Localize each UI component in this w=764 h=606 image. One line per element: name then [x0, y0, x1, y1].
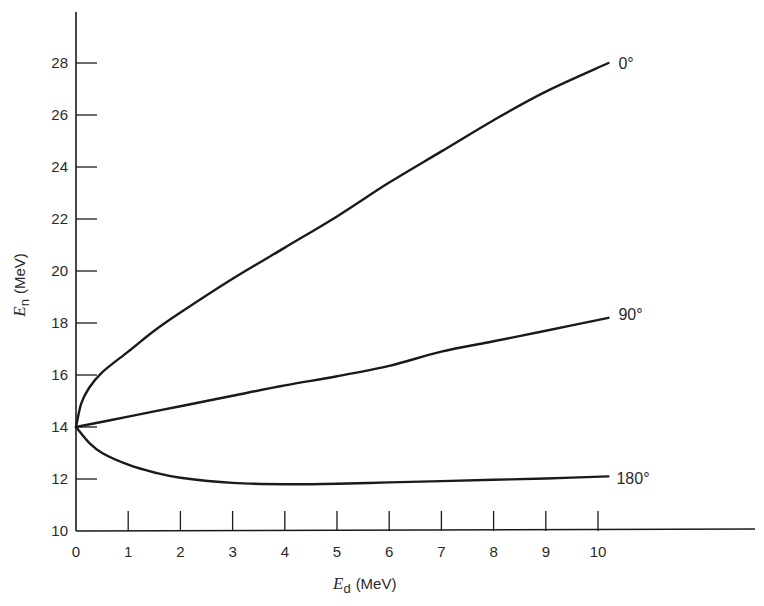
y-tick-label: 10 [51, 522, 68, 539]
y-tick-label: 12 [51, 470, 68, 487]
y-tick-label: 28 [51, 54, 68, 71]
y-tick-label: 18 [51, 314, 68, 331]
x-axis-line [76, 529, 755, 531]
x-tick-label: 4 [281, 543, 289, 560]
x-tick-label: 3 [228, 543, 236, 560]
curve-label-90-deg: 90° [618, 306, 642, 323]
y-tick-label: 16 [51, 366, 68, 383]
y-tick-label: 20 [51, 262, 68, 279]
y-tick-label: 24 [51, 158, 68, 175]
y-axis-symbol: E [10, 306, 29, 318]
curve-0-deg [76, 63, 608, 427]
y-axis-title: En(MeV) [10, 253, 32, 317]
x-tick-label: 5 [333, 543, 341, 560]
x-tick-label: 0 [72, 543, 80, 560]
x-axis-unit: (MeV) [356, 575, 397, 592]
tick-marks [76, 63, 598, 531]
x-tick-label: 9 [542, 543, 550, 560]
curve-labels: 0°90°180° [616, 55, 649, 487]
curve-180-deg [76, 427, 608, 484]
x-axis-symbol: E [332, 574, 344, 593]
curve-label-180-deg: 180° [616, 470, 649, 487]
y-tick-label: 14 [51, 418, 68, 435]
x-tick-label: 7 [437, 543, 445, 560]
chart: 01234567891010121416182022242628 0°90°18… [0, 0, 764, 606]
x-tick-label: 10 [590, 543, 607, 560]
x-axis-title: Ed(MeV) [332, 574, 396, 596]
y-axis-unit: (MeV) [11, 253, 28, 294]
x-tick-label: 6 [385, 543, 393, 560]
y-tick-label: 26 [51, 106, 68, 123]
x-tick-label: 1 [124, 543, 132, 560]
x-tick-label: 2 [176, 543, 184, 560]
curves [76, 63, 608, 484]
x-tick-label: 8 [489, 543, 497, 560]
y-tick-label: 22 [51, 210, 68, 227]
curve-label-0-deg: 0° [618, 55, 633, 72]
curve-90-deg [76, 318, 608, 427]
axes [76, 12, 755, 531]
x-axis-subscript: d [343, 581, 350, 596]
y-axis-subscript: n [17, 299, 32, 306]
